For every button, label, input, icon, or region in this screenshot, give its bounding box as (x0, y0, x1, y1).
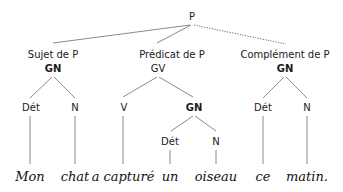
edge-gn-complement-det (263, 77, 284, 98)
edge-gn-objet-det (171, 116, 193, 131)
edge-gn-objet-n (195, 116, 216, 131)
function-predicat: Prédicat de P (139, 49, 204, 60)
node-v: V (121, 102, 128, 113)
edge-root-sujet (53, 25, 190, 43)
function-sujet: Sujet de P (28, 49, 78, 60)
node-det-objet: Dét (161, 136, 179, 147)
function-complement: Complément de P (240, 49, 329, 60)
category-gn-sujet: GN (45, 63, 62, 74)
edge-gn-complement-n (286, 77, 307, 98)
category-gn-complement: GN (277, 63, 294, 74)
node-n-sujet: N (71, 102, 78, 113)
word-a-capture: a capturé (92, 169, 155, 184)
node-n-complement: N (303, 102, 310, 113)
edge-root-complement-dotted (194, 25, 286, 44)
word-matin: matin. (286, 169, 328, 184)
edge-gn-sujet-det (30, 77, 52, 98)
node-det-sujet: Dét (22, 102, 40, 113)
edge-gv-gn (159, 77, 193, 97)
edge-root-predicat (157, 25, 191, 43)
word-chat: chat (61, 169, 90, 184)
word-mon: Mon (14, 169, 45, 184)
syntax-tree-diagram: P Sujet de P GN Prédicat de P GV Complém… (0, 0, 343, 192)
root-node-p: P (189, 11, 195, 22)
edge-gv-v (123, 77, 157, 97)
edge-gn-sujet-n (54, 77, 75, 98)
word-ce: ce (256, 169, 271, 184)
word-oiseau: oiseau (195, 169, 237, 184)
category-gv-predicat: GV (151, 63, 166, 74)
node-n-objet: N (212, 136, 219, 147)
word-un: un (162, 169, 179, 184)
node-det-complement: Dét (254, 102, 272, 113)
node-gn-objet: GN (186, 102, 203, 113)
